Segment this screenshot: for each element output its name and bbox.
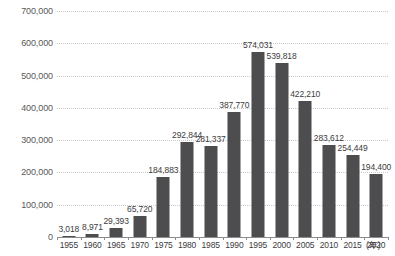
bar-value-label: 387,770 (219, 101, 249, 110)
bar (157, 177, 170, 237)
x-axis-tick-label: 1970 (131, 241, 149, 250)
bar (133, 216, 146, 237)
bar (299, 101, 312, 237)
bar-value-label: 281,337 (196, 135, 226, 144)
bar-group: 29,393 (104, 0, 128, 237)
x-axis-tick (388, 237, 389, 240)
bar-group: 539,818 (270, 0, 294, 237)
bar-group: 283,612 (317, 0, 341, 237)
y-axis-tick-label: 200,000 (0, 168, 53, 177)
bar-chart: 0100,000200,000300,000400,000500,000600,… (0, 0, 395, 256)
bar-value-label: 283,612 (314, 134, 344, 143)
x-axis-title: (年) (366, 241, 381, 250)
bar-group: 387,770 (223, 0, 247, 237)
bar-group: 8,971 (81, 0, 105, 237)
x-axis-tick-label: 1955 (60, 241, 78, 250)
bar-value-label: 422,210 (290, 90, 320, 99)
bar-value-label: 539,818 (267, 52, 297, 61)
x-axis-tick-label: 1975 (154, 241, 172, 250)
bar-value-label: 254,449 (338, 144, 368, 153)
bar (322, 145, 335, 237)
bar-value-label: 65,720 (127, 205, 152, 214)
bar-group: 194,400 (364, 0, 388, 237)
x-axis-tick-label: 1965 (107, 241, 125, 250)
bar (251, 52, 264, 237)
y-axis-tick-label: 500,000 (0, 71, 53, 80)
bar (110, 228, 123, 237)
bar (346, 155, 359, 237)
bar (275, 63, 288, 237)
bar-group: 184,883 (152, 0, 176, 237)
bar-value-label: 29,393 (103, 217, 128, 226)
bar (181, 142, 194, 237)
bar-group: 281,337 (199, 0, 223, 237)
y-axis-tick-label: 600,000 (0, 39, 53, 48)
x-axis: 1955196019651970197519801985199019952000… (57, 239, 388, 256)
plot-area: 3,0188,97129,39365,720184,883292,844281,… (57, 0, 388, 237)
bar (228, 112, 241, 237)
y-axis-tick-label: 100,000 (0, 200, 53, 209)
x-axis-tick-label: 2015 (343, 241, 361, 250)
bar-group: 65,720 (128, 0, 152, 237)
bar-group: 254,449 (341, 0, 365, 237)
bar-group: 3,018 (57, 0, 81, 237)
bar-value-label: 8,971 (82, 223, 103, 232)
x-axis-tick-label: 1995 (249, 241, 267, 250)
x-axis-tick-label: 2010 (320, 241, 338, 250)
y-axis-tick-label: 300,000 (0, 136, 53, 145)
bar-group: 292,844 (175, 0, 199, 237)
y-axis: 0100,000200,000300,000400,000500,000600,… (0, 0, 53, 256)
bar-value-label: 574,031 (243, 41, 273, 50)
bar (204, 146, 217, 237)
x-axis-tick-label: 2005 (296, 241, 314, 250)
y-axis-tick-label: 400,000 (0, 103, 53, 112)
bar-group: 574,031 (246, 0, 270, 237)
x-axis-tick-label: 2000 (272, 241, 290, 250)
x-axis-tick-label: 1980 (178, 241, 196, 250)
bar-value-label: 3,018 (58, 225, 79, 234)
bar-value-label: 184,883 (148, 166, 178, 175)
bar-group: 422,210 (293, 0, 317, 237)
y-axis-tick-label: 0 (0, 233, 53, 242)
bar-value-label: 194,400 (361, 163, 391, 172)
x-axis-tick-label: 1990 (225, 241, 243, 250)
bar (370, 174, 383, 237)
y-axis-tick-label: 700,000 (0, 7, 53, 16)
x-axis-tick-label: 1960 (83, 241, 101, 250)
x-axis-tick-label: 1985 (202, 241, 220, 250)
